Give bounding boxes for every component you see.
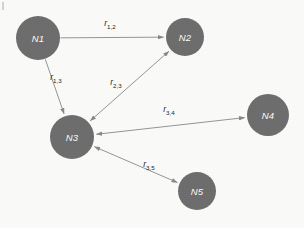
edge-n2-n3[interactable] [90,51,169,121]
node-label-n1: N1 [32,33,45,44]
node-relation-diagram: r1,2r1,3r2,3r3,4r3,5 N1N2N3N4N5 [0,0,304,228]
edge-label-e34: r3,4 [163,104,175,116]
node-label-n2: N2 [179,32,192,43]
diagram-canvas: r1,2r1,3r2,3r3,4r3,5 N1N2N3N4N5 [0,0,304,228]
edge-n1-n3[interactable] [45,59,64,114]
edge-n3-n4[interactable] [96,118,244,135]
edge-n1-n2[interactable] [60,37,163,38]
edge-label-e13: r1,3 [50,72,62,84]
edge-label-e23: r2,3 [110,77,122,89]
node-n4[interactable]: N4 [247,94,289,136]
node-label-n4: N4 [262,110,275,121]
node-n2[interactable]: N2 [166,18,204,56]
edge-n3-n5[interactable] [94,147,177,183]
edge-label-e12: r1,2 [104,18,116,30]
node-n1[interactable]: N1 [16,16,60,60]
edge-label-e35: r3,5 [143,159,155,171]
node-n5[interactable]: N5 [178,172,216,210]
node-n3[interactable]: N3 [50,115,94,159]
nodes-layer: N1N2N3N4N5 [16,16,289,210]
node-label-n5: N5 [191,186,204,197]
node-label-n3: N3 [66,132,79,143]
